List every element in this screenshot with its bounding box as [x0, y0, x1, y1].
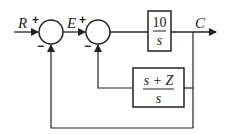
block-diagram: R + − E + − 10 s C s + Z s: [0, 0, 228, 134]
inner-feedback-return-line: [98, 45, 133, 88]
sum1-minus-sign: −: [37, 39, 44, 53]
sum2-minus-sign: −: [84, 39, 91, 53]
inner-feedback-denominator: s: [156, 91, 162, 106]
forward-denominator: s: [157, 33, 163, 48]
forward-numerator: 10: [153, 15, 167, 30]
inner-feedback-numerator: s + Z: [144, 73, 174, 88]
signal-e-label: E: [66, 15, 76, 31]
sum2-plus-sign: +: [79, 13, 86, 27]
signal-c-label: C: [195, 15, 206, 31]
sum1-plus-sign: +: [32, 13, 39, 27]
signal-r-label: R: [17, 15, 27, 31]
